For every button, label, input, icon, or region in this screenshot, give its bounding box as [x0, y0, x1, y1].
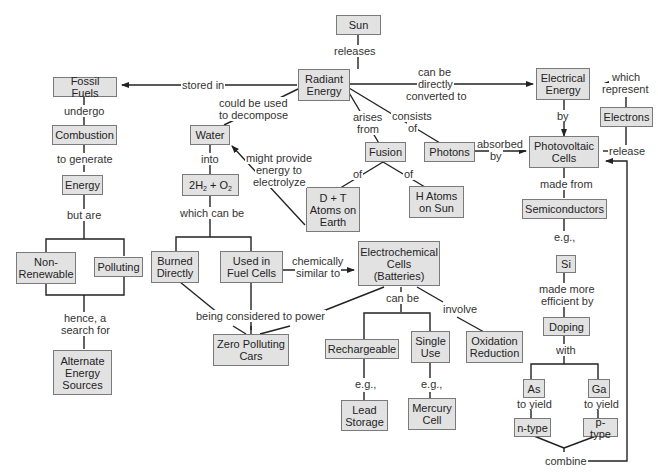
node-si: Si: [556, 255, 576, 273]
link-which-can-be: which can be: [179, 207, 245, 219]
link-stored-in: stored in: [181, 79, 225, 91]
link-search-for: search for: [60, 324, 111, 336]
link-can-be-directly-3: converted to: [405, 90, 468, 102]
link-by: by: [556, 110, 570, 122]
node-used-in-fuel-cells: Used in Fuel Cells: [220, 251, 283, 283]
node-electrons: Electrons: [600, 107, 653, 127]
node-energy: Energy: [62, 175, 103, 195]
node-dt-atoms: D + T Atoms on Earth: [306, 187, 360, 232]
node-non-renewable: Non-Renewable: [16, 252, 76, 284]
link-release: release: [608, 145, 646, 157]
link-consists: consists: [391, 110, 433, 122]
node-alternate-energy-sources: Alternate Energy Sources: [53, 350, 112, 395]
link-involve: involve: [442, 303, 478, 315]
link-which: which: [611, 71, 641, 83]
node-fossil-fuels: Fossil Fuels: [53, 77, 117, 97]
link-absorbed-by: by: [489, 150, 503, 162]
node-water: Water: [190, 125, 230, 145]
node-radiant-energy: Radiant Energy: [298, 69, 350, 101]
node-oxidation-reduction: Oxidation Reduction: [466, 331, 523, 363]
link-into: into: [200, 153, 220, 165]
link-with: with: [555, 344, 577, 356]
link-to-decompose: to decompose: [218, 109, 289, 121]
node-fusion: Fusion: [365, 142, 406, 162]
link-being-considered: being considered to power: [195, 310, 326, 322]
node-lead-storage: Lead Storage: [341, 400, 388, 431]
node-polluting: Polluting: [94, 257, 143, 277]
link-undergo: undergo: [63, 105, 105, 117]
link-electrolyze: electrolyze: [252, 176, 307, 188]
link-eg-semiconductors: e.g.,: [553, 231, 576, 243]
node-single-use: Single Use: [411, 331, 450, 363]
link-might-provide: might provide: [245, 152, 313, 164]
link-chemically: chemically: [291, 255, 344, 267]
node-semiconductors: Semiconductors: [522, 199, 607, 219]
link-but-are: but are: [66, 209, 102, 221]
node-electrical-energy: Electrical Energy: [536, 68, 590, 100]
link-can-be: can be: [385, 292, 420, 304]
node-p-type: p-type: [583, 418, 618, 437]
link-efficient-by: efficient by: [540, 295, 594, 307]
node-as: As: [523, 379, 545, 398]
node-h2-o2: 2H2 + O2: [182, 174, 239, 196]
link-fusion-of-right: of: [403, 168, 414, 180]
link-similar-to: similar to: [295, 267, 341, 279]
link-to-yield-as: to yield: [516, 398, 553, 410]
h2-o2-formula: 2H2 + O2: [189, 179, 232, 191]
link-fusion-of-left: of: [352, 168, 363, 180]
link-to-generate: to generate: [56, 153, 114, 165]
link-hence: hence, a: [63, 312, 107, 324]
link-made-more: made more: [538, 283, 596, 295]
node-ga: Ga: [588, 379, 610, 398]
link-arises: arises: [352, 111, 383, 123]
node-rechargeable: Rechargeable: [325, 339, 399, 359]
node-burned-directly: Burned Directly: [151, 251, 199, 283]
node-doping: Doping: [543, 317, 590, 336]
node-sun: Sun: [336, 15, 381, 35]
node-h-atoms: H Atoms on Sun: [409, 186, 464, 218]
link-made-from: made from: [539, 178, 594, 190]
node-electrochemical-cells: Electrochemical Cells (Batteries): [358, 241, 440, 286]
node-n-type: n-type: [514, 418, 551, 437]
node-combustion: Combustion: [52, 125, 117, 145]
link-could-be-used: could be used: [218, 97, 289, 109]
link-to-yield-ga: to yield: [583, 398, 620, 410]
link-represent: represent: [601, 83, 649, 95]
node-photovoltaic-cells: Photovoltaic Cells: [529, 136, 599, 168]
link-eg-rechargeable: e.g.,: [354, 378, 377, 390]
node-photons: Photons: [424, 142, 475, 162]
link-releases: releases: [333, 45, 377, 57]
link-eg-single-use: e.g.,: [420, 378, 443, 390]
link-can-be-directly-1: can be: [417, 66, 452, 78]
link-absorbed: absorbed: [476, 138, 524, 150]
link-combine: combine: [544, 455, 588, 467]
node-zero-polluting-cars: Zero Polluting Cars: [213, 334, 289, 366]
node-mercury-cell: Mercury Cell: [408, 398, 456, 430]
link-energy-to: energy to: [255, 164, 303, 176]
link-consists-of: of: [407, 122, 418, 134]
link-arises-from: from: [356, 123, 380, 135]
link-can-be-directly-2: directly: [417, 78, 454, 90]
